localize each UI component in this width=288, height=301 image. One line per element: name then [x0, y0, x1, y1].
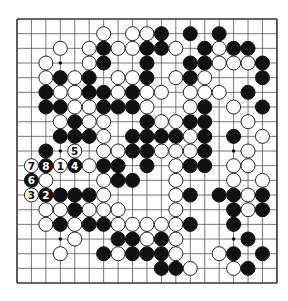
white-stone: [241, 56, 255, 70]
black-stone: [154, 232, 168, 246]
white-stone: [82, 115, 96, 129]
black-stone: [126, 129, 140, 143]
white-stone: [97, 129, 111, 143]
white-stone: [183, 144, 197, 158]
black-stone-move-4: 4: [68, 159, 82, 173]
white-stone: [82, 203, 96, 217]
white-stone: [97, 203, 111, 217]
black-stone: [255, 100, 269, 114]
black-stone: [255, 247, 269, 261]
white-stone: [198, 71, 212, 85]
white-stone-move-7: 7: [24, 159, 38, 173]
black-stone: [53, 71, 67, 85]
black-stone: [227, 41, 241, 55]
white-stone: [126, 217, 140, 231]
black-stone: [183, 27, 197, 41]
black-stone: [227, 129, 241, 143]
black-stone: [82, 71, 96, 85]
white-stone: [111, 71, 125, 85]
black-stone-move-8: 8: [39, 159, 53, 173]
black-stone: [227, 203, 241, 217]
black-stone: [255, 56, 269, 70]
white-stone: [82, 100, 96, 114]
white-stone: [53, 41, 67, 55]
white-stone: [227, 261, 241, 275]
black-stone: [111, 232, 125, 246]
white-stone-move-3: 3: [24, 188, 38, 202]
white-stone: [241, 203, 255, 217]
black-stone: [126, 100, 140, 114]
black-stone: [140, 247, 154, 261]
white-stone: [53, 247, 67, 261]
black-stone: [183, 71, 197, 85]
black-stone: [68, 115, 82, 129]
black-stone: [140, 144, 154, 158]
black-stone: [169, 261, 183, 275]
black-stone: [183, 56, 197, 70]
black-stone: [97, 247, 111, 261]
black-stone: [241, 232, 255, 246]
white-stone: [97, 173, 111, 187]
black-stone: [140, 129, 154, 143]
black-stone: [53, 100, 67, 114]
black-stone: [97, 56, 111, 70]
black-stone: [154, 27, 168, 41]
black-stone: [82, 188, 96, 202]
white-stone: [39, 217, 53, 231]
black-stone: [255, 188, 269, 202]
white-stone: [39, 203, 53, 217]
star-point: [232, 149, 236, 153]
black-stone: [183, 115, 197, 129]
black-stone: [97, 41, 111, 55]
white-stone: [140, 217, 154, 231]
black-stone: [198, 115, 212, 129]
move-number-label: 8: [42, 160, 49, 172]
black-stone: [212, 27, 226, 41]
move-number-label: 4: [71, 160, 78, 172]
star-point: [59, 237, 63, 241]
white-stone: [82, 159, 96, 173]
black-stone: [39, 85, 53, 99]
white-stone: [53, 85, 67, 99]
white-stone: [68, 217, 82, 231]
move-number-label: 2: [42, 189, 49, 201]
black-stone: [126, 247, 140, 261]
white-stone: [126, 71, 140, 85]
black-stone: [183, 188, 197, 202]
white-stone: [53, 115, 67, 129]
white-stone: [82, 56, 96, 70]
black-stone: [198, 41, 212, 55]
white-stone: [39, 56, 53, 70]
black-stone: [126, 85, 140, 99]
star-point: [59, 61, 63, 65]
black-stone: [212, 188, 226, 202]
black-stone: [82, 217, 96, 231]
white-stone: [255, 129, 269, 143]
white-stone: [97, 115, 111, 129]
white-stone: [111, 217, 125, 231]
black-stone: [198, 100, 212, 114]
white-stone: [169, 247, 183, 261]
white-stone: [169, 188, 183, 202]
move-number-label: 3: [28, 189, 35, 201]
black-stone: [97, 85, 111, 99]
white-stone: [126, 27, 140, 41]
white-stone-move-1: 1: [53, 159, 67, 173]
white-stone: [154, 144, 168, 158]
white-stone: [255, 173, 269, 187]
black-stone: [140, 41, 154, 55]
white-stone: [140, 85, 154, 99]
black-stone: [183, 159, 197, 173]
black-stone: [140, 115, 154, 129]
white-stone: [68, 100, 82, 114]
white-stone: [183, 100, 197, 114]
black-stone: [198, 129, 212, 143]
black-stone: [68, 203, 82, 217]
white-stone: [183, 85, 197, 99]
black-stone-move-2: 2: [39, 188, 53, 202]
black-stone: [154, 247, 168, 261]
black-stone: [82, 129, 96, 143]
white-stone: [140, 232, 154, 246]
black-stone-move-6: 6: [24, 173, 38, 187]
white-stone: [154, 85, 168, 99]
